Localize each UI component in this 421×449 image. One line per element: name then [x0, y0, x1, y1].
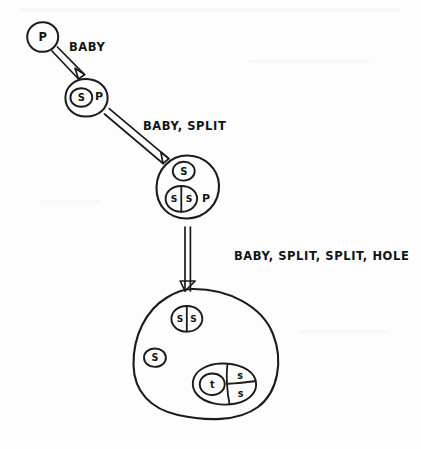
node-4-split-letter-left: S	[177, 314, 183, 324]
edge-baby-split-split-hole-arrow[interactable]	[180, 227, 195, 291]
edge-2-shaft-right	[109, 109, 169, 159]
node-4-split-circle: S S	[171, 306, 202, 332]
node-4-split-letter-right: S	[190, 314, 196, 324]
node-4-letter-s-top: s	[237, 370, 243, 381]
edge-baby-split-arrow[interactable]	[105, 109, 169, 164]
node-state-p[interactable]: P	[27, 22, 58, 52]
node-3-inner-letter-s: S	[180, 166, 187, 177]
node-3-split-letter-right: S	[186, 193, 193, 204]
edge-2-label: BABY, SPLIT	[143, 119, 226, 133]
node-4-letter-t: t	[210, 379, 215, 390]
node-2-letter-p: P	[95, 90, 103, 103]
node-4-compound-blob: t s s	[193, 363, 256, 404]
node-4-compound-divider-horizontal	[227, 381, 256, 384]
node-3-split-circle: S S	[166, 186, 198, 212]
diagram-canvas: P BABY S P BABY, SPLIT S	[0, 0, 421, 449]
node-state-s-ss-p[interactable]: S S S P	[156, 155, 219, 218]
node-4-letter-s-bottom: s	[238, 388, 244, 399]
node-state-s-p[interactable]: S P	[65, 79, 107, 117]
node-3-letter-p: P	[202, 192, 210, 205]
node-2-inner-letter-s: S	[78, 92, 85, 103]
node-3-split-letter-left: S	[171, 193, 178, 204]
edge-1-label: BABY	[69, 40, 106, 54]
edge-3-label: BABY, SPLIT, SPLIT, HOLE	[234, 249, 409, 263]
node-1-letter: P	[38, 30, 46, 44]
node-state-final-blob[interactable]: S S S t s s	[133, 289, 278, 419]
diagram-svg: P BABY S P BABY, SPLIT S	[0, 0, 421, 449]
node-4-inner-letter-s: S	[152, 352, 159, 363]
